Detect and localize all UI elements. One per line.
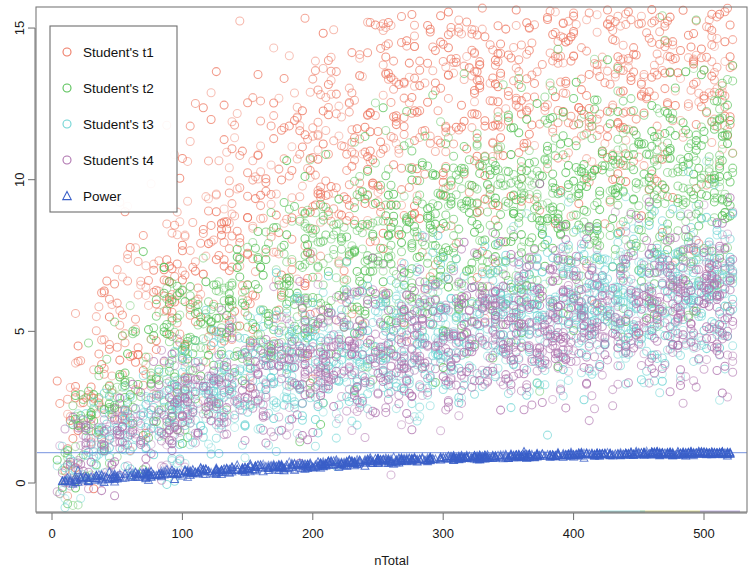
data-point [134, 291, 142, 299]
x-axis-title: nTotal [374, 553, 409, 568]
data-point [319, 289, 327, 297]
data-point [549, 170, 557, 178]
data-point [624, 152, 632, 160]
data-point [278, 293, 286, 301]
data-point [257, 202, 265, 210]
data-point [379, 61, 387, 69]
data-point [627, 95, 635, 103]
data-point [588, 392, 596, 400]
data-point [531, 79, 539, 87]
data-point [473, 208, 481, 216]
data-point [108, 372, 116, 380]
data-point [531, 158, 539, 166]
data-point [361, 379, 369, 387]
data-point [257, 117, 265, 125]
data-point [288, 194, 296, 202]
data-point [630, 68, 638, 76]
data-point [411, 43, 419, 51]
data-point [726, 53, 734, 61]
data-point [465, 209, 473, 217]
data-point [111, 280, 119, 288]
data-point [348, 417, 356, 425]
data-point [471, 183, 479, 191]
data-point [390, 212, 398, 220]
data-point [233, 264, 241, 272]
data-point [405, 270, 413, 278]
data-point [648, 19, 656, 27]
data-point [85, 485, 93, 493]
data-point [74, 342, 82, 350]
data-point [361, 267, 369, 275]
data-point [664, 168, 672, 176]
data-point [637, 361, 645, 369]
data-point [593, 28, 601, 36]
data-point [257, 263, 265, 271]
data-point [319, 29, 327, 37]
data-point [132, 315, 140, 323]
data-point [640, 162, 648, 170]
data-point [700, 66, 708, 74]
data-point [460, 293, 468, 301]
data-point [536, 180, 544, 188]
data-point [596, 361, 604, 369]
data-point [118, 273, 126, 281]
data-point [225, 245, 233, 253]
data-point [666, 388, 674, 396]
data-point [311, 442, 319, 450]
data-point [332, 434, 340, 442]
data-point [220, 205, 228, 213]
data-point [343, 407, 351, 415]
data-point [458, 185, 466, 193]
data-point [361, 434, 369, 442]
data-point [324, 254, 332, 262]
data-point [690, 30, 698, 38]
data-point [390, 85, 398, 93]
data-point [105, 313, 113, 321]
data-point [677, 117, 685, 125]
x-tick-label: 100 [172, 526, 194, 541]
data-point [335, 195, 343, 203]
data-point [437, 12, 445, 20]
data-point [275, 165, 283, 173]
data-point [551, 8, 559, 16]
data-point [481, 122, 489, 130]
data-point [231, 423, 239, 431]
data-point [682, 68, 690, 76]
data-point [207, 221, 215, 229]
data-point [489, 229, 497, 237]
data-point [622, 10, 630, 18]
data-point [285, 282, 293, 290]
data-point [202, 193, 210, 201]
data-point [345, 84, 353, 92]
data-point [411, 21, 419, 29]
data-point [444, 8, 452, 16]
data-point [564, 376, 572, 384]
data-point [100, 287, 108, 295]
data-point [619, 109, 627, 117]
data-point [695, 164, 703, 172]
data-point [285, 122, 293, 130]
data-point [541, 93, 549, 101]
data-point [319, 140, 327, 148]
data-point [387, 471, 395, 479]
data-point [544, 16, 552, 24]
data-point [338, 393, 346, 401]
data-point [262, 228, 270, 236]
data-point [387, 362, 395, 370]
data-point [343, 166, 351, 174]
data-point [549, 113, 557, 121]
data-point [557, 203, 565, 211]
data-point [207, 116, 215, 124]
data-point [512, 96, 520, 104]
data-point [468, 199, 476, 207]
data-point [724, 140, 732, 148]
data-point [366, 128, 374, 136]
data-point [139, 248, 147, 256]
data-point [267, 122, 275, 130]
data-point [494, 22, 502, 30]
data-point [267, 200, 275, 208]
data-point [126, 302, 134, 310]
data-point [661, 199, 669, 207]
data-point [416, 403, 424, 411]
data-point [677, 47, 685, 55]
